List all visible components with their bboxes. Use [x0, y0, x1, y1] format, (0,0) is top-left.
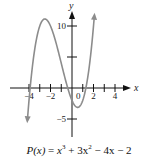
x-tick-label: 0	[76, 91, 81, 101]
x-axis-label: x	[133, 82, 139, 93]
tick-labels: −4−202410−5	[24, 21, 118, 124]
y-tick-label: 10	[57, 21, 67, 31]
y-axis-arrow-icon	[69, 11, 75, 19]
curve-arrow-left-icon	[25, 116, 31, 123]
function-caption: P(x) = x3 + 3x2 − 4x − 2	[0, 143, 158, 156]
curve-arrow-right-icon	[91, 13, 97, 20]
x-tick-label: 2	[91, 91, 96, 101]
x-axis-arrow-icon	[123, 85, 131, 91]
x-tick-label: 4	[113, 91, 118, 101]
y-tick-label: −5	[56, 114, 66, 124]
caption-lhs: P(x)	[26, 144, 45, 156]
caption-term: − 4x − 2	[92, 144, 132, 156]
caption-term: + 3x	[65, 144, 88, 156]
x-tick-label: −2	[46, 91, 56, 101]
polynomial-curve	[27, 16, 94, 121]
y-axis-label: y	[68, 0, 74, 11]
function-plot: x y −4−202410−5	[0, 0, 158, 140]
